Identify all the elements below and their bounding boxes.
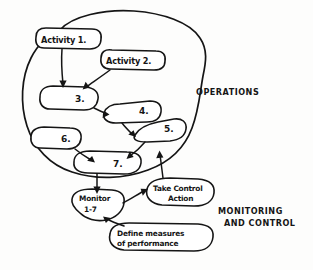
- node-take-control-action[interactable]: Take Control Action: [147, 178, 215, 206]
- node-7-label: 7.: [113, 159, 123, 169]
- node-activity-1[interactable]: Activity 1.: [36, 28, 101, 49]
- node-6[interactable]: 6.: [31, 127, 81, 149]
- node-monitor-label-line2: 1-7: [84, 205, 97, 214]
- label-monitoring-text-line2: AND CONTROL: [224, 218, 295, 228]
- edge-activity2-to-node3: [83, 70, 110, 90]
- node-activity-1-label: Activity 1.: [41, 35, 86, 45]
- label-operations-text: OPERATIONS: [196, 87, 259, 97]
- node-monitor[interactable]: Monitor 1-7: [72, 189, 124, 221]
- edge-node4-to-node5: [122, 123, 136, 137]
- node-activity-2[interactable]: Activity 2.: [101, 50, 165, 70]
- node-5-label: 5.: [164, 124, 174, 134]
- node-3-label: 3.: [75, 94, 85, 104]
- node-take-control-action-label-line2: Action: [168, 194, 193, 203]
- node-3[interactable]: 3.: [40, 86, 98, 110]
- label-monitoring-text-line1: MONITORING: [218, 206, 283, 216]
- node-6-label: 6.: [61, 134, 71, 144]
- label-monitoring-and-control: MONITORING AND CONTROL: [218, 206, 295, 228]
- diagram-canvas: Activity 1. Activity 2. 3. 4. 5. 6.: [0, 0, 313, 270]
- node-4-label: 4.: [139, 106, 149, 116]
- hand-drawn-diagram: Activity 1. Activity 2. 3. 4. 5. 6.: [0, 0, 313, 270]
- node-define-measures-label-line2: of performance: [117, 239, 178, 248]
- node-4[interactable]: 4.: [104, 101, 162, 123]
- node-define-measures-label-line1: Define measures: [117, 229, 185, 238]
- node-activity-2-label: Activity 2.: [106, 56, 151, 66]
- edge-monitor-to-take-control-action: [123, 189, 148, 203]
- edge-activity1-to-node3: [59, 49, 66, 88]
- node-define-measures[interactable]: Define measures of performance: [110, 223, 214, 251]
- node-monitor-label-line1: Monitor: [79, 194, 111, 203]
- node-take-control-action-label-line1: Take Control: [153, 184, 203, 193]
- label-operations: OPERATIONS: [196, 87, 259, 97]
